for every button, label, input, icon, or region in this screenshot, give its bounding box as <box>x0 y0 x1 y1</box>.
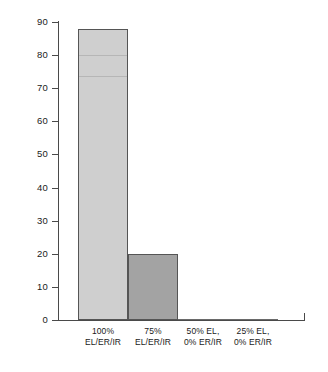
x-axis-line <box>58 320 305 321</box>
y-axis-tick-label: 60 <box>8 116 48 126</box>
y-axis-tick-label: 20 <box>8 249 48 259</box>
bar <box>228 319 278 320</box>
x-axis-category-label: 25% EL,0% ER/IR <box>213 326 293 348</box>
y-axis-tick-label: 90 <box>8 17 48 27</box>
y-axis-tick-label: 0 <box>8 315 48 325</box>
y-axis-tick-label: 50 <box>8 149 48 159</box>
plot-area <box>58 22 305 320</box>
x-label-line-1: 75% <box>144 326 161 336</box>
y-axis-tick-label: 30 <box>8 216 48 226</box>
x-label-line-1: 25% EL, <box>237 326 270 336</box>
x-label-line-2: 0% ER/IR <box>213 337 293 348</box>
scan-band-artifact <box>79 55 127 56</box>
bar-chart-figure: 0102030405060708090 100%EL/ER/IR75%EL/ER… <box>0 0 328 372</box>
y-axis-tick-label: 70 <box>8 83 48 93</box>
y-axis-tick-label: 10 <box>8 282 48 292</box>
bar <box>128 254 178 320</box>
y-axis-tick-label: 80 <box>8 50 48 60</box>
bar <box>78 29 128 320</box>
y-axis-tick-label: 40 <box>8 183 48 193</box>
x-label-line-1: 100% <box>92 326 114 336</box>
y-axis-tick <box>52 320 58 321</box>
scan-band-artifact <box>79 76 127 77</box>
bar <box>178 319 228 320</box>
